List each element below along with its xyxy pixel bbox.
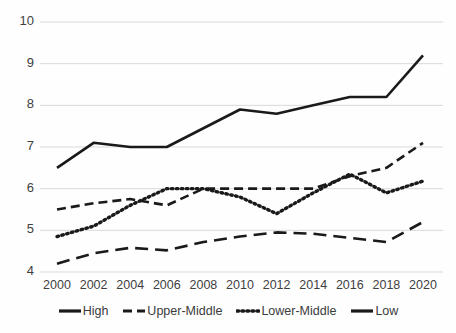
y-axis-tick-label: 4 xyxy=(8,263,34,278)
x-axis-tick-label: 2012 xyxy=(257,278,297,292)
x-axis-tick-label: 2020 xyxy=(403,278,443,292)
legend-label: Upper-Middle xyxy=(147,304,222,318)
series-line-low xyxy=(57,222,423,264)
x-axis-tick-label: 2014 xyxy=(293,278,333,292)
y-axis-tick-label: 5 xyxy=(8,221,34,236)
line-chart: 10987654 2000200220042006200820102012201… xyxy=(0,0,456,333)
x-axis-tick-label: 2010 xyxy=(220,278,260,292)
x-axis-tick-label: 2000 xyxy=(37,278,77,292)
y-axis-tick-label: 9 xyxy=(8,55,34,70)
dashed-line-swatch xyxy=(122,305,146,317)
legend-item-high[interactable]: High xyxy=(58,304,109,318)
x-axis-tick-label: 2018 xyxy=(366,278,406,292)
x-axis-tick-label: 2002 xyxy=(74,278,114,292)
legend-item-lower-middle[interactable]: Lower-Middle xyxy=(236,304,336,318)
series-line-upper-middle xyxy=(57,143,423,210)
x-axis-tick-label: 2016 xyxy=(330,278,370,292)
series-line-high xyxy=(57,55,423,168)
chart-legend: HighUpper-MiddleLower-MiddleLow xyxy=(0,304,456,318)
legend-label: High xyxy=(83,304,109,318)
y-axis-tick-label: 10 xyxy=(8,13,34,28)
legend-label: Lower-Middle xyxy=(261,304,336,318)
series-line-lower-middle xyxy=(57,174,423,237)
y-axis-tick-label: 8 xyxy=(8,96,34,111)
x-axis-tick-label: 2008 xyxy=(183,278,223,292)
legend-item-low[interactable]: Low xyxy=(350,304,398,318)
x-axis-tick-label: 2004 xyxy=(110,278,150,292)
legend-item-upper-middle[interactable]: Upper-Middle xyxy=(122,304,222,318)
x-axis-tick-label: 2006 xyxy=(147,278,187,292)
solid-line-swatch xyxy=(350,305,374,317)
y-axis-tick-label: 7 xyxy=(8,138,34,153)
solid-line-swatch xyxy=(58,305,82,317)
legend-label: Low xyxy=(375,304,398,318)
dotted-line-swatch xyxy=(236,305,260,317)
y-axis-tick-label: 6 xyxy=(8,180,34,195)
